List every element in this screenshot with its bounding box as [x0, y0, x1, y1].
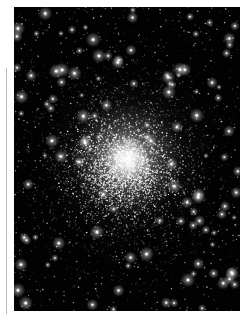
star-field [14, 7, 240, 311]
vertical-rule [6, 68, 7, 314]
page-canvas [0, 0, 248, 322]
astronomy-image [14, 7, 240, 311]
